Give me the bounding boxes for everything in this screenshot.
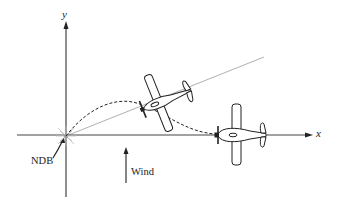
- x-axis: [17, 133, 313, 138]
- x-axis-label: x: [316, 128, 321, 139]
- x-axis-arrowhead-icon: [305, 133, 313, 138]
- y-axis-label: y: [62, 9, 67, 20]
- ndb-diagram: [0, 0, 337, 208]
- ndb-label: NDB: [31, 156, 53, 167]
- dashed-path-1: [66, 101, 142, 136]
- wind-arrow-icon: [124, 147, 129, 183]
- plane-2-icon: [215, 104, 266, 165]
- y-axis: [64, 21, 69, 197]
- y-axis-arrowhead-icon: [64, 21, 69, 29]
- wind-label: Wind: [131, 167, 154, 178]
- plane-1-icon: [130, 62, 202, 138]
